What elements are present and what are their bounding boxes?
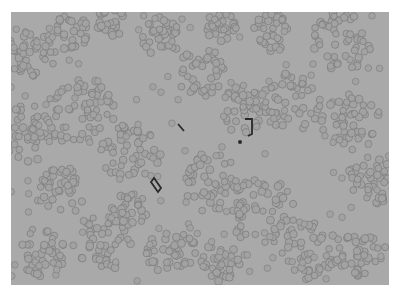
micrograph-image [11,12,389,285]
cell-field [11,12,389,285]
